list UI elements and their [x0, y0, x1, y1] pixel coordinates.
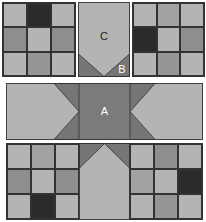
patch-square: [27, 27, 51, 51]
patch-square: [3, 3, 27, 27]
patch-square: [55, 194, 79, 219]
label-a: A: [101, 105, 109, 117]
patch-square: [157, 52, 181, 76]
patch-square: [154, 194, 178, 219]
patch-square: [130, 169, 154, 194]
label-b: B: [118, 63, 125, 75]
patch-square: [31, 169, 55, 194]
top-c-piece: C B: [78, 2, 130, 77]
middle-a-strip: A: [6, 83, 203, 140]
patch-square: [27, 3, 51, 27]
patch-square: [51, 3, 75, 27]
patch-square: [7, 144, 31, 169]
patch-square: [31, 194, 55, 219]
bottom-right-nine-patch: [129, 143, 203, 220]
patch-square: [178, 169, 202, 194]
patch-square: [130, 144, 154, 169]
top-right-nine-patch: [132, 2, 205, 77]
bottom-left-nine-patch: [6, 143, 80, 220]
patch-square: [130, 194, 154, 219]
patch-square: [133, 52, 157, 76]
patch-square: [157, 27, 181, 51]
bottom-c-piece: [79, 143, 130, 220]
patch-square: [157, 3, 181, 27]
patch-square: [55, 144, 79, 169]
patch-square: [27, 52, 51, 76]
patch-square: [7, 194, 31, 219]
patch-square: [180, 3, 204, 27]
patch-square: [7, 169, 31, 194]
label-c: C: [100, 30, 108, 42]
patch-square: [3, 27, 27, 51]
patch-square: [178, 194, 202, 219]
top-left-nine-patch: [2, 2, 76, 77]
patch-square: [133, 3, 157, 27]
patch-square: [3, 52, 27, 76]
patch-square: [154, 144, 178, 169]
patch-square: [51, 52, 75, 76]
patch-square: [31, 144, 55, 169]
patch-square: [180, 27, 204, 51]
patch-square: [51, 27, 75, 51]
patch-square: [180, 52, 204, 76]
patch-square: [178, 144, 202, 169]
patch-square: [133, 27, 157, 51]
patch-square: [154, 169, 178, 194]
patch-square: [55, 169, 79, 194]
